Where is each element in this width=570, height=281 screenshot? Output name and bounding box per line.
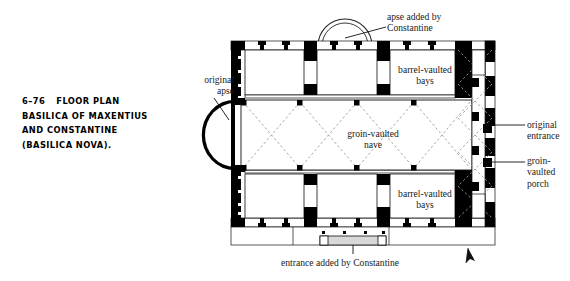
south-wall	[231, 218, 495, 227]
annotation-groin-vaulted-nave: groin-vaulted nave	[334, 128, 412, 151]
north-arrow-icon	[466, 248, 475, 263]
north-wall	[231, 41, 495, 50]
annotation-entrance-added-by-constantine: entrance added by Constantine	[281, 257, 399, 268]
bay-s1	[245, 174, 304, 218]
annotation-original-apse: original apse	[176, 74, 234, 97]
original-apse	[205, 103, 235, 167]
bay-n2	[317, 50, 377, 95]
annotation-original-entrance: original entrance	[527, 119, 560, 142]
annotation-apse-added-by-constantine: apse added by Constantine	[387, 11, 441, 34]
floor-plan-drawing	[0, 0, 570, 281]
bay-s2	[317, 174, 377, 218]
bay-n1	[245, 50, 304, 95]
east-wall	[485, 41, 495, 227]
figure-page: 6–76FLOOR PLAN BASILICA OF MAXENTIUS AND…	[0, 0, 570, 281]
annotation-groin-vaulted-porch: groin- vaulted porch	[527, 155, 555, 189]
constantinian-entrance	[231, 227, 495, 245]
porch-entrance-marker	[483, 158, 492, 167]
annotation-barrel-vaulted-bays-bottom: barrel-vaulted bays	[390, 188, 460, 211]
annotation-barrel-vaulted-bays-top: barrel-vaulted bays	[390, 64, 460, 87]
